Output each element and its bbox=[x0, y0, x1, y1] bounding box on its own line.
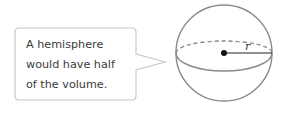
callout-line-3: of the volume. bbox=[26, 75, 136, 95]
radius-label: r bbox=[245, 40, 251, 53]
callout-text: A hemisphere would have half of the volu… bbox=[26, 35, 136, 95]
center-dot bbox=[221, 50, 227, 56]
callout-line-1: A hemisphere bbox=[26, 35, 136, 55]
callout-line-2: would have half bbox=[26, 55, 136, 75]
